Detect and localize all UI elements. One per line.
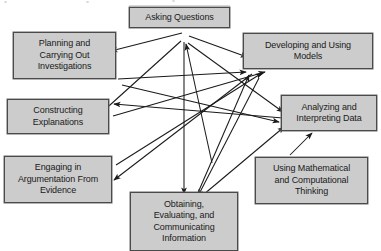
scan-artifact-dot-left xyxy=(4,1,7,3)
node-label-using-mathematics: Using Mathematical and Computational Thi… xyxy=(273,163,350,198)
arrow-engaging-to-models xyxy=(116,73,262,165)
node-label-constructing-explanations: Constructing Explanations xyxy=(33,105,83,128)
scan-artifact-top-line xyxy=(129,5,230,6)
arrow-models-to-obtaining xyxy=(198,78,259,196)
scan-artifact-dot-mid xyxy=(86,1,89,3)
node-label-analyzing-data: Analyzing and Interpreting Data xyxy=(296,102,361,125)
node-label-engaging-argumentation: Engaging in Argumentation From Evidence xyxy=(18,162,98,197)
node-label-planning-investigations: Planning and Carrying Out Investigations xyxy=(38,38,92,73)
node-asking-questions[interactable]: Asking Questions xyxy=(129,7,230,28)
arrow-asking-to-models xyxy=(189,36,247,57)
node-using-mathematics[interactable]: Using Mathematical and Computational Thi… xyxy=(255,157,368,204)
arrow-planning-to-models xyxy=(118,72,246,79)
node-obtaining-information[interactable]: Obtaining, Evaluating, and Communicating… xyxy=(130,192,238,251)
scan-artifact-dot-right xyxy=(172,0,175,2)
arrow-models-to-engaging xyxy=(114,74,252,180)
arrow-obtaining-to-models xyxy=(197,75,249,195)
node-label-developing-models: Developing and Using Models xyxy=(265,40,351,63)
arrow-mathematics-to-analyzing xyxy=(290,133,312,155)
node-label-asking-questions: Asking Questions xyxy=(145,12,213,24)
arrow-analyzing-to-constructing xyxy=(114,104,283,118)
practices-diagram: Asking Questions Planning and Carrying O… xyxy=(0,0,381,251)
node-planning-investigations[interactable]: Planning and Carrying Out Investigations xyxy=(13,32,116,79)
node-analyzing-data[interactable]: Analyzing and Interpreting Data xyxy=(281,95,377,131)
node-developing-models[interactable]: Developing and Using Models xyxy=(243,33,373,69)
node-engaging-argumentation[interactable]: Engaging in Argumentation From Evidence xyxy=(4,156,112,203)
node-label-obtaining-information: Obtaining, Evaluating, and Communicating… xyxy=(153,199,214,245)
arrow-asking-to-planning xyxy=(111,33,182,51)
node-constructing-explanations[interactable]: Constructing Explanations xyxy=(7,99,109,134)
